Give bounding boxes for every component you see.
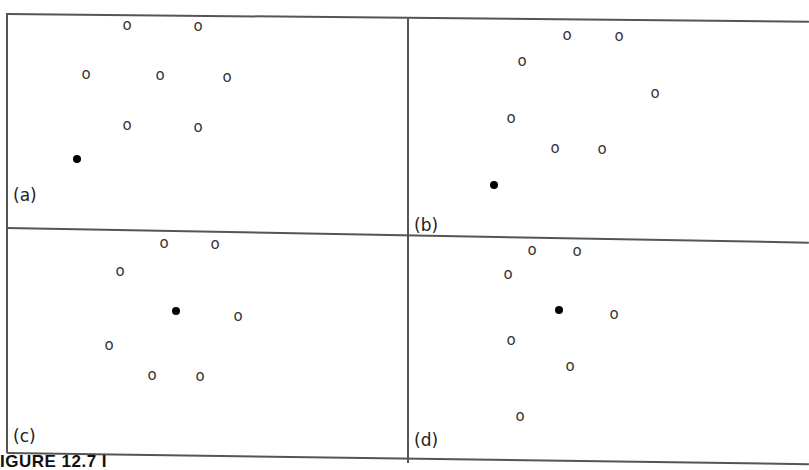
open-marker: o <box>233 309 242 324</box>
open-marker: o <box>122 118 131 133</box>
filled-dot-marker <box>555 306 563 314</box>
open-marker: o <box>506 333 515 348</box>
open-marker: o <box>222 70 231 85</box>
frame-vertical-divider <box>407 17 409 463</box>
filled-dot-marker <box>490 181 498 189</box>
figure-12-7: ooooooo(a)ooooooo(b)ooooooo(c)ooooooo(d)… <box>0 0 809 470</box>
open-marker: o <box>597 142 606 157</box>
open-marker: o <box>506 111 515 126</box>
open-marker: o <box>515 409 524 424</box>
open-marker: o <box>195 369 204 384</box>
open-marker: o <box>147 368 156 383</box>
panel-label: (b) <box>414 215 438 235</box>
open-marker: o <box>565 359 574 374</box>
open-marker: o <box>81 67 90 82</box>
open-marker: o <box>159 236 168 251</box>
open-marker: o <box>122 18 131 33</box>
open-marker: o <box>193 19 202 34</box>
frame-left-border <box>6 13 8 453</box>
open-marker: o <box>609 307 618 322</box>
open-marker: o <box>614 29 623 44</box>
filled-dot-marker <box>73 155 81 163</box>
open-marker: o <box>115 264 124 279</box>
open-marker: o <box>562 28 571 43</box>
open-marker: o <box>550 141 559 156</box>
open-marker: o <box>210 237 219 252</box>
open-marker: o <box>503 267 512 282</box>
open-marker: o <box>650 86 659 101</box>
figure-caption: IGURE 12.7 I <box>0 452 107 470</box>
open-marker: o <box>527 243 536 258</box>
panel-label: (c) <box>13 426 36 446</box>
panel-label: (d) <box>414 430 438 450</box>
open-marker: o <box>572 244 581 259</box>
open-marker: o <box>155 68 164 83</box>
panel-label: (a) <box>13 185 37 205</box>
open-marker: o <box>193 120 202 135</box>
filled-dot-marker <box>172 307 180 315</box>
open-marker: o <box>104 338 113 353</box>
open-marker: o <box>517 54 526 69</box>
